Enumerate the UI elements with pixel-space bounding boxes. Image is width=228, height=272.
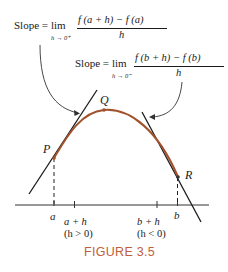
label-a-plus-h: a + h [64, 216, 87, 227]
point-r [176, 175, 180, 179]
denominator: h [176, 67, 181, 78]
diagram-graphics [0, 0, 228, 272]
lim-label: lim [51, 19, 66, 31]
numerator: f (b + h) − f (b) [135, 52, 201, 63]
numerator: f (a + h) − f (a) [78, 14, 144, 25]
label-b-plus-h: b + h [137, 216, 160, 227]
lim-subscript: h → 0⁺ [51, 34, 70, 42]
lim-label: lim [112, 57, 127, 69]
label-q: Q [100, 93, 109, 108]
arrowhead-right [149, 114, 155, 120]
arrow-left-formula [40, 45, 78, 113]
label-r: R [185, 168, 192, 183]
point-q [102, 108, 106, 112]
arrowhead-left [74, 110, 80, 116]
formula-prefix: Slope = [75, 57, 109, 69]
function-curve [54, 110, 178, 177]
formula-prefix: Slope = [14, 19, 48, 31]
lim-subscript: h → 0⁻ [112, 72, 131, 80]
label-b: b [174, 209, 180, 221]
point-p [52, 156, 56, 160]
arrow-right-formula [152, 82, 182, 117]
label-b-plus-h-condition: (h < 0) [137, 228, 166, 239]
figure-3-5: Slope = lim h → 0⁺ f (a + h) − f (a) h S… [0, 0, 228, 272]
label-p: P [43, 142, 50, 157]
label-a: a [50, 210, 56, 222]
denominator: h [119, 29, 124, 40]
label-a-plus-h-condition: (h > 0) [64, 228, 93, 239]
figure-caption: FIGURE 3.5 [84, 245, 155, 259]
